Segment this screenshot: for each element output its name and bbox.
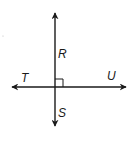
right-angle-marker bbox=[55, 79, 63, 87]
label-s: S bbox=[58, 106, 66, 120]
perpendicular-lines-diagram: R T U S bbox=[0, 0, 131, 141]
label-t: T bbox=[21, 71, 30, 85]
speck bbox=[2, 35, 3, 36]
label-r: R bbox=[58, 47, 67, 61]
label-u: U bbox=[107, 69, 116, 83]
